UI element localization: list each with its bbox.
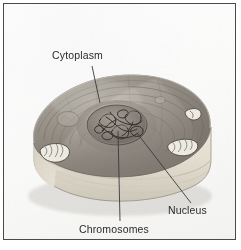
label-nucleus: Nucleus <box>168 205 207 216</box>
organelle-mitochondrion-right <box>168 139 198 156</box>
figure-page: Cytoplasm Chromosomes Nucleus <box>0 0 241 250</box>
label-cytoplasm: Cytoplasm <box>52 50 103 61</box>
label-chromosomes: Chromosomes <box>79 224 149 235</box>
organelle-vesicle-small <box>155 97 165 104</box>
organelle-vacuole <box>57 112 79 127</box>
